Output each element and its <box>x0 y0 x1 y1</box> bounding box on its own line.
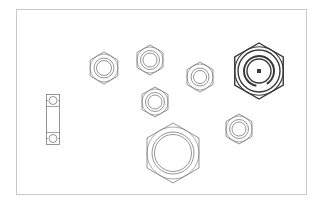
bearing-side-view <box>46 95 60 145</box>
hex-nut-icon <box>142 87 168 117</box>
bearing-ball-icon <box>49 135 57 143</box>
center-mark-icon <box>257 69 261 73</box>
hex-nuts-group <box>90 43 283 183</box>
hex-nut-icon <box>187 62 213 92</box>
hex-nut-icon <box>137 45 163 75</box>
hex-nut-icon <box>90 52 118 84</box>
cad-drawing-canvas <box>0 0 324 206</box>
bearing-ball-icon <box>49 97 57 105</box>
hex-nut-icon <box>226 114 252 144</box>
drawing-frame <box>17 10 307 195</box>
hex-nut-icon <box>235 43 284 99</box>
hex-nut-icon <box>147 123 199 183</box>
